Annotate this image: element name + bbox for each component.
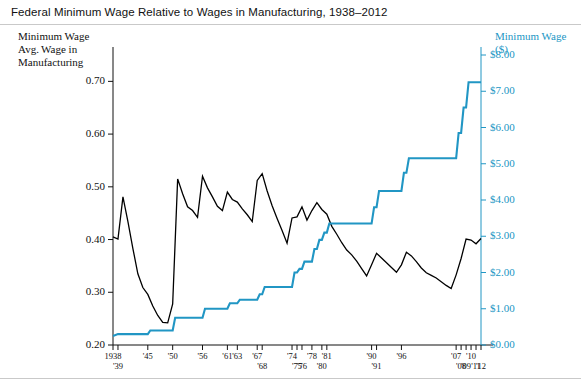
y-tick-label: 0.30 xyxy=(67,285,105,297)
y2-tick-label: $2.00 xyxy=(490,266,515,278)
y-tick-label: 0.50 xyxy=(67,180,105,192)
x-tick-label: '80 xyxy=(308,361,336,371)
x-tick-label: '56 xyxy=(189,351,217,361)
x-tick-label: '91 xyxy=(363,361,391,371)
y2-tick-label: $4.00 xyxy=(490,193,515,205)
x-tick-label: '12 xyxy=(467,361,495,371)
y2-tick-label: $8.00 xyxy=(490,48,515,60)
y2-tick-label: $5.00 xyxy=(490,157,515,169)
y2-tick-label: $0.00 xyxy=(490,338,515,350)
series-line-minimum-wage-dollars xyxy=(113,82,481,336)
x-tick-label: '39 xyxy=(104,361,132,371)
x-tick-label: '50 xyxy=(159,351,187,361)
series-line-wage-ratio xyxy=(113,174,481,323)
chart-container: Federal Minimum Wage Relative to Wages i… xyxy=(0,0,581,383)
y2-tick-label: $1.00 xyxy=(490,302,515,314)
y-tick-label: 0.20 xyxy=(67,338,105,350)
x-tick-label: '68 xyxy=(248,361,276,371)
x-tick-label: 1938 xyxy=(99,351,127,361)
x-tick-label: '10 xyxy=(457,351,485,361)
y-tick-label: 0.70 xyxy=(67,74,105,86)
y-tick-label: 0.60 xyxy=(67,127,105,139)
x-tick-label: '81 xyxy=(313,351,341,361)
x-tick-label: '45 xyxy=(134,351,162,361)
x-tick-label: '90 xyxy=(358,351,386,361)
y2-tick-label: $6.00 xyxy=(490,121,515,133)
x-tick-label: '96 xyxy=(387,351,415,361)
y2-tick-label: $7.00 xyxy=(490,84,515,96)
y2-tick-label: $3.00 xyxy=(490,229,515,241)
x-tick-label: '67 xyxy=(243,351,271,361)
y-tick-label: 0.40 xyxy=(67,233,105,245)
